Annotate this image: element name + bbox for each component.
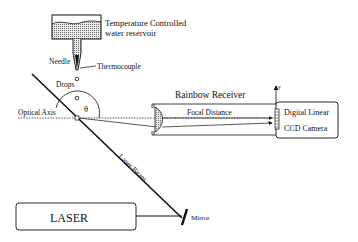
drop-icon [75,96,79,100]
y-axis-label: y [278,84,281,90]
drop-icon [75,77,79,81]
focal-distance-label: Focal Distance [187,108,232,117]
needle [73,39,81,70]
camera-label-line2: CCD Camera [284,124,328,133]
rainbow-refractometry-diagram: Temperature Controlled water reservoir N… [0,0,358,242]
laser-label: LASER [50,211,88,225]
mirror-label: Mirror [191,214,210,222]
ccd-sensor-icon [275,109,279,129]
focal-ray-lower [162,123,272,127]
needle-label: Needle [49,57,71,66]
drops-label: Drops [56,80,74,89]
scattered-ray [79,118,157,127]
thermocouple-leader [80,66,96,68]
thermocouple-label: Thermocouple [97,62,141,71]
laser-beam-label: Laser Beam [117,152,149,184]
camera-label-line1: Digital Linear [284,108,329,117]
theta-label: θ [84,104,88,114]
lens-icon [155,107,163,132]
reservoir-label-line1: Temperature Controlled [105,18,187,28]
water-reservoir [52,15,101,40]
drop-at-axis [75,116,79,120]
mirror-icon [182,209,187,225]
laser-beam-line [32,74,182,218]
angle-arc [56,91,100,118]
receiver-title: Rainbow Receiver [175,90,246,100]
reservoir-label-line2: water reservoir [105,28,156,38]
optical-axis-label: Optical Axis [18,108,56,117]
